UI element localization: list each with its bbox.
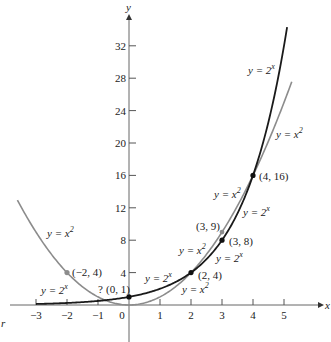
label-exp-top: y = 2x — [247, 62, 275, 76]
y-tick-label: 16 — [115, 169, 127, 181]
x-tick-label: 4 — [250, 309, 256, 321]
label-sq-left: y = x2 — [46, 225, 74, 239]
label-point-3-8: (3, 8) — [229, 235, 253, 248]
y-tick-label: 28 — [115, 72, 127, 84]
x-tick-label: 3 — [219, 309, 225, 321]
x-tick-label: −3 — [30, 309, 42, 321]
label-sq-low: y = x2 — [181, 281, 209, 295]
y-ticks: 48121620242832 — [115, 40, 136, 279]
y-tick-label: 4 — [121, 267, 127, 279]
y-tick-label: 8 — [121, 234, 127, 246]
x-tick-label: −2 — [61, 309, 73, 321]
point-2-4 — [188, 270, 193, 275]
label-point-4-16: (4, 16) — [259, 170, 289, 183]
label-point-2-4: (2, 4) — [198, 269, 222, 282]
chart-plot: x y −3−2−1012345 48121620242832 (−2, 4) … — [0, 0, 331, 342]
y-tick-label: 12 — [115, 202, 126, 214]
y-tick-label: 24 — [115, 105, 127, 117]
label-sq-39: y = x2 — [178, 242, 206, 256]
stray-mark: r — [1, 317, 6, 329]
point-3-8 — [219, 238, 224, 243]
y-tick-label: 20 — [115, 137, 127, 149]
y-axis-label: y — [125, 1, 131, 13]
label-point-0-1: (0, 1) — [106, 283, 130, 296]
x-tick-label: −1 — [92, 309, 104, 321]
label-exp-left: y = 2x — [40, 282, 68, 296]
x-axis-label: x — [324, 299, 330, 311]
label-question-mark: ? — [98, 283, 103, 295]
point-m2-4 — [64, 270, 69, 275]
label-exp-38: y = 2x — [215, 250, 243, 264]
label-point-3-9: (3, 9) — [196, 220, 220, 233]
x-axis-arrow-icon — [318, 302, 324, 308]
y-tick-label: 32 — [115, 40, 126, 52]
x-tick-label: 1 — [157, 309, 163, 321]
label-point-m2-4: (−2, 4) — [72, 266, 102, 279]
label-exp-416: y = 2x — [242, 204, 270, 218]
label-exp-mid: y = 2x — [144, 270, 172, 284]
label-sq-416: y = x2 — [213, 186, 241, 200]
point-4-16 — [250, 173, 255, 178]
x-tick-label: 2 — [188, 309, 194, 321]
point-0-1 — [126, 294, 131, 299]
label-sq-top: y = x2 — [275, 126, 303, 140]
y-axis-arrow-icon — [126, 14, 132, 20]
x-tick-label: 0 — [119, 309, 125, 321]
point-3-9 — [220, 230, 225, 235]
x-tick-label: 5 — [281, 309, 287, 321]
